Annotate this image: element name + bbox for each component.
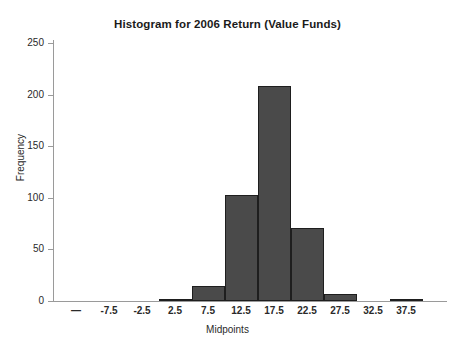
y-axis-tick-label: 50	[4, 244, 44, 254]
x-axis-title: Midpoints	[0, 324, 455, 335]
histogram-bar	[324, 294, 357, 301]
x-axis-line	[53, 301, 447, 302]
y-axis-tick-label: 150	[4, 141, 44, 151]
y-axis-tick-label: 100	[4, 193, 44, 203]
y-axis-tick-label: 0	[4, 296, 44, 306]
y-axis-tick	[48, 301, 53, 302]
histogram-figure: Histogram for 2006 Return (Value Funds) …	[0, 0, 455, 353]
chart-title: Histogram for 2006 Return (Value Funds)	[0, 18, 455, 30]
histogram-bar	[390, 299, 423, 301]
plot-area	[53, 43, 447, 301]
histogram-bar	[192, 286, 225, 301]
histogram-bar	[291, 228, 324, 301]
y-axis-tick-label: 200	[4, 90, 44, 100]
histogram-bar	[225, 195, 258, 301]
x-axis-tick-label: 37.5	[384, 305, 428, 317]
y-axis-tick-label: 250	[4, 38, 44, 48]
histogram-bar	[159, 299, 192, 301]
histogram-bar	[258, 86, 291, 301]
